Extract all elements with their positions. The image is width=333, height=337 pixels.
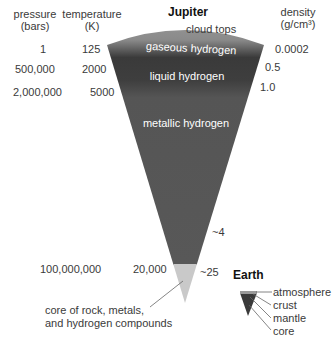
temperature-header: temperature (K) <box>62 8 122 32</box>
pressure-value: 1 <box>10 43 46 55</box>
temperature-value: 20,000 <box>133 263 167 275</box>
earth-layer-label: mantle <box>273 312 306 324</box>
earth-wedge <box>240 293 257 316</box>
layer-liquid-label: liquid hydrogen <box>150 70 225 82</box>
density-value: 0.5 <box>265 61 280 73</box>
temperature-value: 5000 <box>90 86 114 98</box>
earth-layer-label: core <box>273 325 294 337</box>
earth-title: Earth <box>233 269 264 281</box>
temperature-value: 2000 <box>82 63 106 75</box>
title: Jupiter <box>168 6 208 18</box>
cloud-tops-label: cloud tops <box>186 23 236 35</box>
pressure-value: 100,000,000 <box>40 263 101 275</box>
density-value: ~4 <box>212 226 225 238</box>
pressure-header: pressure (bars) <box>4 8 66 32</box>
earth-layer-label: crust <box>273 299 297 311</box>
density-header: density (g/cm³) <box>270 6 326 30</box>
layer-metallic-label: metallic hydrogen <box>143 117 229 129</box>
pressure-value: 500,000 <box>15 63 55 75</box>
earth-layer-label: atmosphere <box>273 286 331 298</box>
pressure-value: 2,000,000 <box>13 86 62 98</box>
density-value: ~25 <box>200 266 219 278</box>
density-value: 1.0 <box>260 81 275 93</box>
temperature-value: 125 <box>82 43 100 55</box>
density-value: 0.0002 <box>275 43 309 55</box>
core-label: core of rock, metals, and hydrogen compo… <box>45 304 172 329</box>
